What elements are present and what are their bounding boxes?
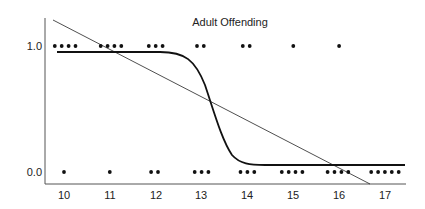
data-points-offending: [53, 44, 341, 48]
data-point: [53, 44, 57, 48]
data-point: [390, 170, 394, 174]
data-point: [195, 44, 199, 48]
data-point: [119, 44, 123, 48]
x-tick-label: 15: [287, 189, 299, 201]
data-point: [252, 170, 256, 174]
y-tick-label-1: 1.0: [27, 40, 42, 52]
data-point: [74, 44, 78, 48]
data-point: [241, 44, 245, 48]
data-point: [99, 44, 103, 48]
data-point: [383, 170, 387, 174]
data-point: [154, 44, 158, 48]
x-tick-label: 17: [379, 189, 391, 201]
data-point: [291, 44, 295, 48]
data-point: [369, 170, 373, 174]
data-point: [294, 170, 298, 174]
y-tick-label-0: 0.0: [27, 166, 42, 178]
data-point: [397, 170, 401, 174]
data-point: [202, 44, 206, 48]
data-point: [301, 170, 305, 174]
data-point: [149, 170, 153, 174]
data-point: [346, 170, 350, 174]
data-point: [67, 44, 71, 48]
data-point: [113, 44, 117, 48]
x-tick-label: 11: [104, 189, 115, 201]
data-point: [207, 170, 211, 174]
data-point: [376, 170, 380, 174]
data-point: [337, 44, 341, 48]
data-point: [287, 170, 291, 174]
data-point: [200, 170, 204, 174]
data-point: [340, 170, 344, 174]
data-point: [62, 170, 66, 174]
data-point: [156, 170, 160, 174]
data-point: [106, 44, 110, 48]
data-point: [147, 44, 151, 48]
x-tick-label: 16: [333, 189, 345, 201]
data-point: [60, 44, 64, 48]
data-point: [246, 170, 250, 174]
x-tick-label: 10: [58, 189, 70, 201]
x-tick-label: 13: [195, 189, 207, 201]
logistic-fit-curve: [57, 52, 405, 165]
data-point: [280, 170, 284, 174]
x-tick-label: 12: [150, 189, 162, 201]
x-tick-labels: 10 11 12 13 14 15 16 17: [58, 189, 391, 201]
data-point: [108, 170, 112, 174]
logistic-regression-chart: Adult Offending 1.0 0.0 10 11 12 13 14 1…: [0, 0, 425, 209]
data-point: [239, 170, 243, 174]
data-point: [333, 170, 337, 174]
x-tick-label: 14: [241, 189, 253, 201]
data-point: [193, 170, 197, 174]
chart-title: Adult Offending: [192, 16, 268, 28]
data-point: [161, 44, 165, 48]
data-point: [326, 170, 330, 174]
data-point: [248, 44, 252, 48]
